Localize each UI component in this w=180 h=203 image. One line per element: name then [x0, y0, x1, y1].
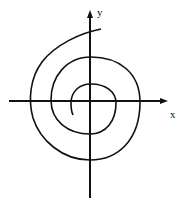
y-axis-label: y [97, 6, 103, 18]
spiral-curve [30, 29, 140, 160]
spiral-diagram [0, 0, 180, 203]
x-axis-label: x [170, 108, 176, 120]
